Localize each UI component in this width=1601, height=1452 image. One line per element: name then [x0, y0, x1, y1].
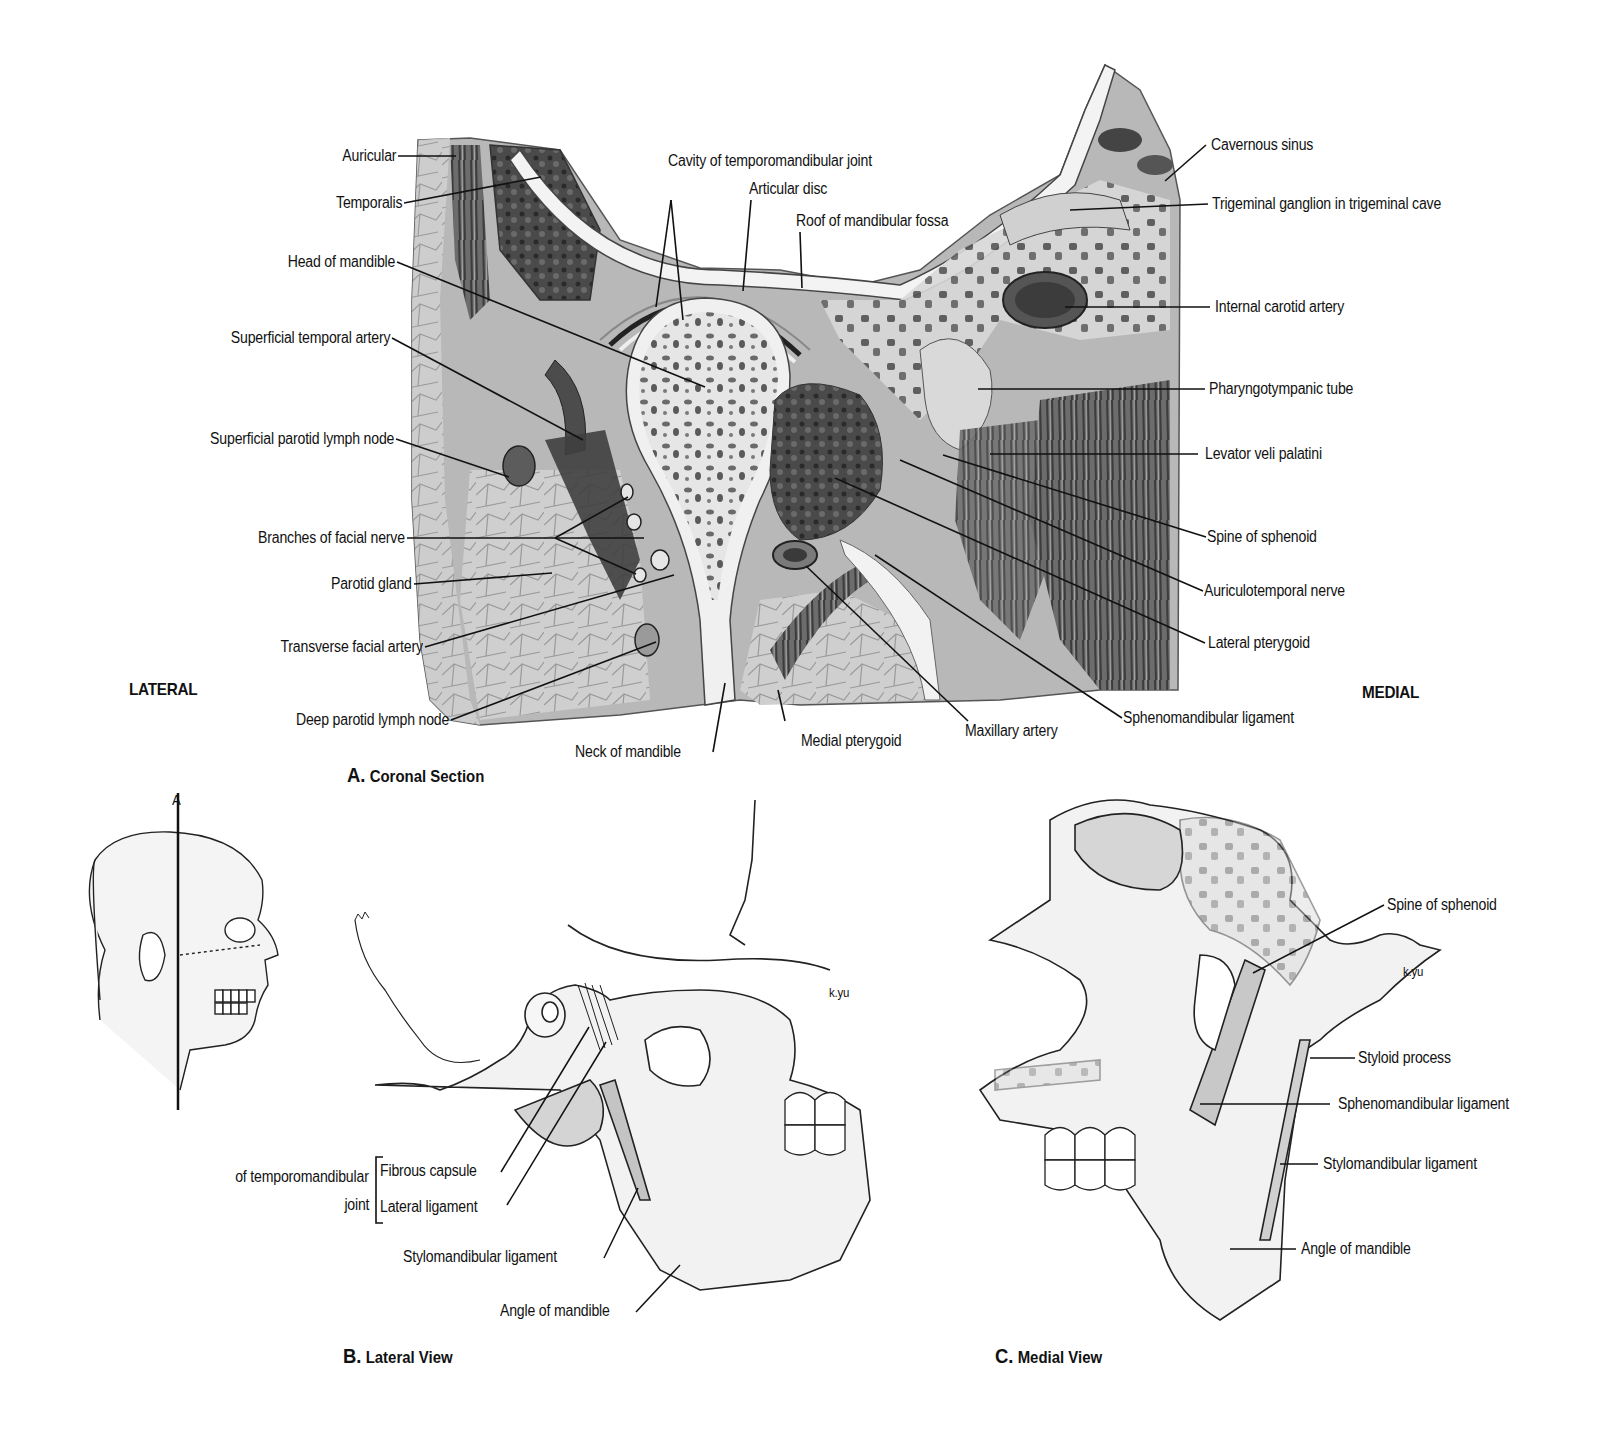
orientation-medial: MEDIAL	[1362, 683, 1419, 703]
label-articular-disc: Articular disc	[749, 180, 827, 198]
label-fibrous-capsule: Fibrous capsule	[380, 1162, 477, 1180]
caption-title: Coronal Section	[370, 767, 485, 786]
label-roof-of-mandibular-fossa: Roof of mandibular fossa	[796, 212, 948, 230]
label-pharyngotympanic-tube: Pharyngotympanic tube	[1209, 380, 1353, 398]
label-of-temporomandibular: of temporomandibular	[236, 1168, 369, 1186]
head-orientation-artwork	[89, 832, 278, 1090]
label-cavernous-sinus: Cavernous sinus	[1211, 136, 1313, 154]
label-auricular: Auricular	[342, 147, 396, 165]
caption-letter: A.	[347, 763, 365, 786]
artist-signature-b: k.yu	[829, 984, 849, 1002]
label-superficial-parotid-lymph-node: Superficial parotid lymph node	[210, 430, 394, 448]
label-deep-parotid-lymph-node: Deep parotid lymph node	[296, 711, 449, 729]
label-auriculotemporal-nerve: Auriculotemporal nerve	[1204, 582, 1345, 600]
lateral-view-artwork	[355, 800, 870, 1290]
plane-label-a: A	[172, 791, 181, 809]
caption-title: Lateral View	[366, 1348, 453, 1367]
label-spine-of-sphenoid-c: Spine of sphenoid	[1387, 896, 1497, 914]
caption-panel-c: C. Medial View	[995, 1344, 1102, 1368]
label-trigeminal-ganglion: Trigeminal ganglion in trigeminal cave	[1212, 195, 1441, 213]
label-temporalis: Temporalis	[336, 194, 402, 212]
label-lateral-pterygoid: Lateral pterygoid	[1208, 634, 1310, 652]
label-angle-of-mandible-b: Angle of mandible	[500, 1302, 610, 1320]
label-stylomandibular-ligament-c: Stylomandibular ligament	[1323, 1155, 1477, 1173]
orientation-lateral: LATERAL	[129, 680, 197, 700]
caption-panel-b: B. Lateral View	[343, 1344, 453, 1368]
caption-letter: B.	[343, 1344, 361, 1367]
label-superficial-temporal-artery: Superficial temporal artery	[230, 329, 390, 347]
label-maxillary-artery: Maxillary artery	[965, 722, 1058, 740]
caption-panel-a: A. Coronal Section	[347, 763, 484, 787]
caption-letter: C.	[995, 1344, 1013, 1367]
label-branches-of-facial-nerve: Branches of facial nerve	[258, 529, 405, 547]
label-spine-of-sphenoid-a: Spine of sphenoid	[1207, 528, 1317, 546]
label-neck-of-mandible: Neck of mandible	[575, 743, 681, 761]
label-sphenomandibular-ligament-a: Sphenomandibular ligament	[1123, 709, 1294, 727]
label-medial-pterygoid: Medial pterygoid	[801, 732, 901, 750]
caption-title: Medial View	[1018, 1348, 1103, 1367]
label-cavity-of-tmj: Cavity of temporomandibular joint	[668, 152, 872, 170]
label-lateral-ligament: Lateral ligament	[380, 1198, 477, 1216]
label-sphenomandibular-ligament-c: Sphenomandibular ligament	[1338, 1095, 1509, 1113]
label-transverse-facial-artery: Transverse facial artery	[281, 638, 423, 656]
label-styloid-process: Styloid process	[1358, 1049, 1451, 1067]
label-internal-carotid-artery: Internal carotid artery	[1215, 298, 1344, 316]
label-stylomandibular-ligament-b: Stylomandibular ligament	[403, 1248, 557, 1266]
label-angle-of-mandible-c: Angle of mandible	[1301, 1240, 1411, 1258]
label-head-of-mandible: Head of mandible	[287, 253, 395, 271]
artist-signature-c: k.yu	[1403, 963, 1423, 981]
label-levator-veli-palatini: Levator veli palatini	[1205, 445, 1322, 463]
label-parotid-gland: Parotid gland	[331, 575, 412, 593]
label-joint: joint	[344, 1196, 369, 1214]
